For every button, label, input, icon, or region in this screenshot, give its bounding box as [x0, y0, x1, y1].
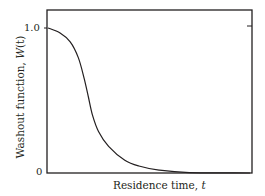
plot-frame	[47, 10, 252, 173]
y-axis-label: Washout function, W(t)	[14, 36, 26, 159]
x-axis-label: Residence time, t	[113, 179, 206, 191]
washout-curve	[48, 28, 250, 173]
y-tick-label-1: 1.0	[24, 23, 40, 33]
y-tick-label-0: 0	[36, 167, 42, 177]
